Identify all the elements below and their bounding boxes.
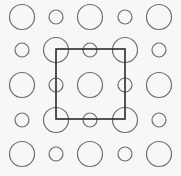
small-circle	[152, 43, 166, 57]
large-circle	[78, 5, 103, 30]
circle-grid-diagram	[0, 0, 181, 176]
small-circle	[152, 113, 166, 127]
large-circle	[10, 142, 35, 167]
small-circle	[83, 43, 97, 57]
overlay-square	[56, 49, 125, 119]
small-circle	[15, 43, 29, 57]
small-circle	[49, 10, 63, 24]
large-circle	[78, 73, 103, 98]
small-circle	[49, 147, 63, 161]
large-circle	[147, 142, 172, 167]
large-circle	[10, 5, 35, 30]
small-circle	[15, 113, 29, 127]
circle-grid	[10, 5, 172, 167]
large-circle	[78, 142, 103, 167]
small-circle	[83, 113, 97, 127]
large-circle	[147, 73, 172, 98]
large-circle	[147, 5, 172, 30]
large-circle	[10, 73, 35, 98]
small-circle	[118, 147, 132, 161]
small-circle	[118, 10, 132, 24]
